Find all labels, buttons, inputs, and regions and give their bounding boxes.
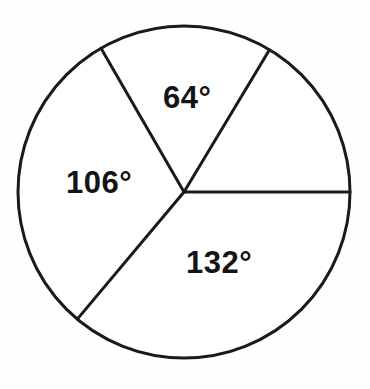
sector-label-bottom: 132° (186, 247, 252, 278)
sector-label-left: 106° (66, 167, 132, 198)
pie-diagram (0, 0, 370, 389)
sector-label-top: 64° (163, 82, 211, 113)
circle-angles-figure: 64° 106° 132° (0, 0, 370, 389)
